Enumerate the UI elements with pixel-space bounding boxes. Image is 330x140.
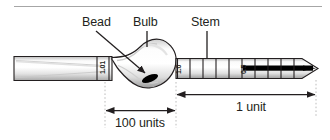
dimension-label-1-unit: 1 unit xyxy=(236,101,266,114)
stem-body xyxy=(176,59,318,79)
hydrometer-diagram: Bead Bulb Stem 1.01 1.0 0.5 100 units 1 … xyxy=(0,0,330,140)
diagram-canvas xyxy=(0,0,330,140)
scale-mark-label-101: 1.01 xyxy=(99,61,106,74)
callout-label-bulb: Bulb xyxy=(133,16,158,29)
dimension-label-100-units: 100 units xyxy=(115,117,165,130)
callout-label-stem: Stem xyxy=(191,16,220,29)
callout-label-bead: Bead xyxy=(82,16,111,29)
scale-mark-label-10: 1.0 xyxy=(175,65,182,74)
scale-mark-label-05: 0.5 xyxy=(240,65,247,74)
